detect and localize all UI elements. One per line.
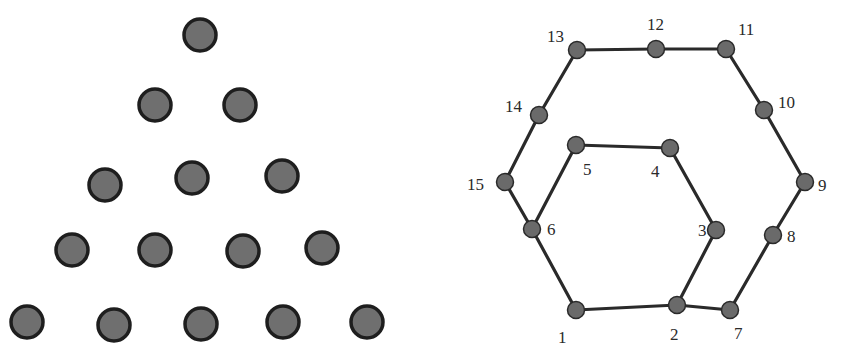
triangle-dot	[351, 306, 383, 338]
graph-node-3	[708, 222, 725, 239]
graph-node-label-7: 7	[734, 324, 743, 343]
graph-edge-1-2	[576, 305, 677, 310]
graph-node-label-10: 10	[778, 93, 795, 112]
triangle-dot	[11, 306, 43, 338]
triangle-dot	[176, 162, 208, 194]
graph-node-label-4: 4	[651, 162, 660, 181]
triangle-dot	[139, 234, 171, 266]
graph-node-label-13: 13	[547, 27, 564, 46]
graph-edge-9-10	[764, 110, 805, 182]
graph-node-4	[662, 140, 679, 157]
numbered-graph: 123456789101112131415	[467, 15, 827, 347]
graph-node-10	[756, 102, 773, 119]
graph-node-9	[797, 174, 814, 191]
triangle-dot	[185, 308, 217, 340]
graph-edge-3-4	[670, 148, 716, 230]
graph-node-2	[669, 297, 686, 314]
graph-node-label-14: 14	[505, 97, 523, 116]
triangle-dot	[266, 160, 298, 192]
graph-node-5	[568, 137, 585, 154]
graph-edge-2-3	[677, 230, 716, 305]
graph-node-6	[524, 221, 541, 238]
triangle-dot	[98, 309, 130, 341]
graph-node-label-9: 9	[818, 176, 827, 195]
graph-node-label-1: 1	[558, 328, 567, 347]
triangle-dot	[224, 89, 256, 121]
graph-node-label-2: 2	[670, 325, 679, 344]
graph-node-label-11: 11	[738, 20, 754, 39]
graph-node-8	[765, 227, 782, 244]
graph-node-7	[722, 302, 739, 319]
graph-node-14	[531, 107, 548, 124]
triangle-dot	[56, 234, 88, 266]
graph-edge-14-15	[505, 115, 539, 182]
triangle-dot	[184, 19, 216, 51]
triangle-dot	[89, 169, 121, 201]
graph-node-15	[497, 174, 514, 191]
triangle-dot	[306, 232, 338, 264]
graph-node-12	[648, 41, 665, 58]
graph-node-label-3: 3	[698, 221, 707, 240]
graph-node-label-15: 15	[467, 175, 484, 194]
figure: 123456789101112131415	[0, 0, 843, 361]
graph-edge-10-11	[726, 49, 764, 110]
graph-edge-12-13	[577, 49, 656, 50]
graph-edge-4-5	[576, 145, 670, 148]
graph-edge-13-14	[539, 50, 577, 115]
triangle-dot	[139, 89, 171, 121]
graph-node-label-6: 6	[547, 220, 556, 239]
graph-edge-5-6	[532, 145, 576, 229]
triangle-dot	[227, 235, 259, 267]
graph-edge-7-8	[730, 235, 773, 310]
graph-node-label-8: 8	[787, 227, 796, 246]
triangle-dot-arrangement	[11, 19, 383, 341]
graph-labels: 123456789101112131415	[467, 15, 827, 347]
graph-node-11	[718, 41, 735, 58]
triangle-dot	[267, 306, 299, 338]
graph-node-label-5: 5	[583, 160, 592, 179]
graph-node-13	[569, 42, 586, 59]
graph-node-1	[568, 302, 585, 319]
graph-edge-6-1	[532, 229, 576, 310]
graph-node-label-12: 12	[647, 15, 664, 34]
